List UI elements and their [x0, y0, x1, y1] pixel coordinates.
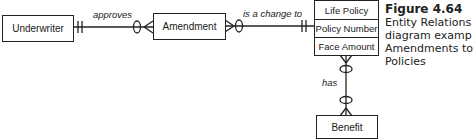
- figure-caption-line: Policies: [385, 55, 473, 68]
- life-policy-title-row: Life Policy: [315, 1, 378, 19]
- entity-amendment: Amendment: [153, 13, 226, 40]
- figure-caption-line: diagram examp: [385, 29, 473, 42]
- entity-benefit-label: Benefit: [331, 122, 362, 133]
- relationship-has-label: has: [322, 77, 337, 88]
- life-policy-attribute-policy-number: Policy Number: [315, 19, 378, 37]
- figure-caption-line: Amendments to: [385, 42, 473, 55]
- entity-underwriter: Underwriter: [2, 15, 74, 42]
- entity-underwriter-label: Underwriter: [12, 23, 64, 34]
- entity-benefit: Benefit: [316, 115, 378, 139]
- entity-life-policy: Life Policy Policy Number Face Amount: [314, 0, 379, 56]
- figure-caption-title: Figure 4.64: [385, 2, 473, 16]
- entity-amendment-label: Amendment: [163, 21, 217, 32]
- life-policy-attribute-face-amount: Face Amount: [315, 37, 378, 55]
- relationship-is-a-change-to-label: is a change to: [243, 8, 302, 19]
- figure-caption: Figure 4.64 Entity Relations diagram exa…: [385, 2, 473, 68]
- relationship-approves-label: approves: [93, 9, 132, 20]
- figure-caption-line: Entity Relations: [385, 16, 473, 29]
